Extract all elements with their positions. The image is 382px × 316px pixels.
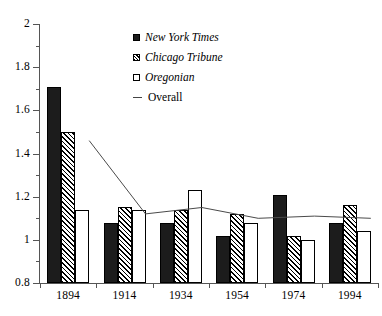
legend: New York Times Chicago Tribune Oregonian… (133, 27, 283, 107)
legend-label: Overall (145, 91, 182, 103)
open-square-icon (133, 74, 140, 81)
overall-polyline (89, 141, 371, 219)
x-axis-tick (40, 283, 41, 288)
x-axis-tick (209, 283, 210, 288)
legend-item-chicago-tribune: Chicago Tribune (133, 47, 283, 67)
y-axis-tick (33, 67, 40, 68)
x-axis-label: 1974 (264, 289, 324, 302)
y-axis-tick (33, 240, 40, 241)
legend-label: Oregonian (145, 71, 194, 83)
y-axis-tick (33, 110, 40, 111)
legend-label: New York Times (145, 31, 219, 43)
bar-chart: 21.81.61.41.210.8 1894191419341954197419… (0, 0, 382, 316)
x-axis-tick (96, 283, 97, 288)
hatched-square-icon (133, 54, 140, 61)
legend-item-new-york-times: New York Times (133, 27, 283, 47)
y-axis-tick (33, 24, 40, 25)
line-segment-icon (133, 94, 140, 101)
y-axis-label: 1.6 (0, 104, 30, 116)
x-axis-tick (265, 283, 266, 288)
y-axis-label: 1.2 (0, 191, 30, 203)
y-axis-label: 0.8 (0, 277, 30, 289)
y-axis-label: 2 (0, 18, 30, 30)
x-axis-label: 1994 (320, 289, 380, 302)
x-axis-label: 1954 (207, 289, 267, 302)
y-axis-tick (33, 283, 40, 284)
y-axis-tick (33, 154, 40, 155)
y-axis-tick (33, 197, 40, 198)
x-axis-label: 1894 (38, 289, 98, 302)
y-axis-label: 1.8 (0, 61, 30, 73)
filled-square-icon (133, 34, 140, 41)
x-axis-label: 1934 (151, 289, 211, 302)
legend-item-overall: Overall (133, 87, 283, 107)
legend-item-oregonian: Oregonian (133, 67, 283, 87)
x-axis-label: 1914 (95, 289, 155, 302)
x-axis-tick (378, 283, 379, 288)
x-axis-tick (153, 283, 154, 288)
y-axis-label: 1 (0, 234, 30, 246)
legend-label: Chicago Tribune (145, 51, 223, 63)
y-axis-label: 1.4 (0, 148, 30, 160)
x-axis-tick (322, 283, 323, 288)
